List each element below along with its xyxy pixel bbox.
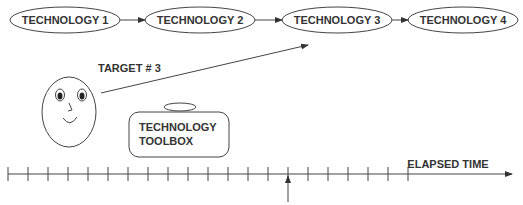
timeline-axis: ELAPSED TIME xyxy=(8,158,512,181)
timeline-ticks xyxy=(8,167,408,181)
technology-node-4-label: TECHNOLOGY 4 xyxy=(420,14,507,26)
toolbox-label-line1: TECHNOLOGY xyxy=(139,121,217,133)
technology-node-2: TECHNOLOGY 2 xyxy=(145,7,255,33)
technology-node-1-label: TECHNOLOGY 1 xyxy=(22,14,109,26)
technology-toolbox: TECHNOLOGY TOOLBOX xyxy=(129,103,229,157)
technology-node-1: TECHNOLOGY 1 xyxy=(10,7,120,33)
technology-roadmap-diagram: TECHNOLOGY 1 TECHNOLOGY 2 TECHNOLOGY 3 T… xyxy=(0,0,523,205)
face-icon xyxy=(42,77,96,147)
toolbox-label-line2: TOOLBOX xyxy=(139,135,194,147)
target-label: TARGET # 3 xyxy=(98,62,161,74)
technology-node-2-label: TECHNOLOGY 2 xyxy=(157,14,244,26)
elapsed-time-label: ELAPSED TIME xyxy=(407,158,488,170)
technology-node-4: TECHNOLOGY 4 xyxy=(408,7,518,33)
technology-node-3-label: TECHNOLOGY 3 xyxy=(294,14,381,26)
technology-node-3: TECHNOLOGY 3 xyxy=(282,7,392,33)
